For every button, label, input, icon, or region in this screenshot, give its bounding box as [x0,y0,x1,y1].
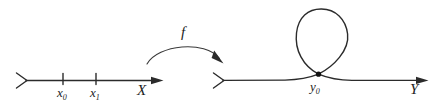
domain-axis-label: X [137,83,146,98]
arrowhead-right-icon [151,77,164,84]
codomain-axis-group [214,9,429,88]
tick-label-x1: x1 [90,86,100,99]
codomain-loop [296,9,348,74]
tick-label-x0: x0 [57,86,67,99]
node-dot-icon [316,72,321,77]
map-arrow-label: f [181,25,185,40]
figure-canvas: x0 x1 X f y0 Y [0,0,443,103]
codomain-right-branch [319,74,421,80]
map-arrow-group [147,47,224,64]
curved-arrow-right-icon [147,47,220,64]
codomain-left-branch [223,74,319,80]
codomain-axis-label: Y [410,82,418,97]
node-label-y0: y0 [310,80,320,93]
